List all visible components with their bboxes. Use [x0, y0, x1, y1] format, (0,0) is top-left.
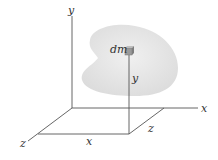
z-axis: [28, 108, 72, 141]
z-distance-label: z: [147, 122, 154, 135]
x-axis-label: x: [201, 102, 208, 115]
height-label: y: [131, 72, 139, 85]
coordinate-diagram: y x z dm y x z: [0, 0, 218, 160]
element-label: dm: [110, 43, 127, 56]
z-distance-line: [129, 108, 164, 134]
y-axis-label: y: [67, 4, 75, 17]
mass-body: [82, 25, 178, 96]
z-axis-label: z: [19, 137, 26, 150]
x-distance-label: x: [86, 135, 93, 148]
